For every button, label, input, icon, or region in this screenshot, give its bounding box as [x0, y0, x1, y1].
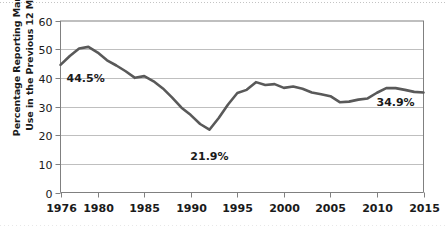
- y-tick-label-10: 10: [39, 159, 53, 172]
- x-tick-label-2005: 2005: [315, 202, 346, 215]
- x-tick-label-2000: 2000: [269, 202, 300, 215]
- y-tick-label-30: 30: [39, 102, 53, 115]
- y-tick-label-60: 60: [39, 16, 53, 29]
- y-axis-tick-marks: [56, 22, 61, 194]
- annotation-start-value: 44.5%: [67, 72, 105, 85]
- x-tick-label-1980: 1980: [83, 202, 114, 215]
- x-tick-label-1990: 1990: [176, 202, 207, 215]
- x-axis-tick-marks: [62, 193, 425, 198]
- x-axis-tick-labels: 197619801985199019952000200520102015: [46, 202, 440, 215]
- gridlines: [61, 22, 424, 165]
- x-tick-label-1976: 1976: [46, 202, 77, 215]
- value-annotations: 44.5%21.9%34.9%: [67, 72, 415, 163]
- plot-frame: [61, 21, 424, 193]
- annotation-end-value: 34.9%: [376, 96, 414, 109]
- x-tick-label-2015: 2015: [409, 202, 440, 215]
- x-tick-label-2010: 2010: [362, 202, 393, 215]
- x-tick-label-1985: 1985: [129, 202, 160, 215]
- x-tick-label-1995: 1995: [222, 202, 253, 215]
- y-tick-label-50: 50: [39, 44, 53, 57]
- y-tick-label-0: 0: [46, 188, 53, 201]
- y-tick-label-40: 40: [39, 73, 53, 86]
- marijuana-use-line-chart: Percentage Reporting Marijuana Use in th…: [0, 0, 445, 226]
- annotation-minimum-value: 21.9%: [190, 150, 228, 163]
- y-tick-label-20: 20: [39, 130, 53, 143]
- plot-area: 0102030405060 19761980198519901995200020…: [0, 0, 445, 226]
- y-axis-tick-labels: 0102030405060: [39, 16, 53, 201]
- data-series-line: [61, 47, 424, 130]
